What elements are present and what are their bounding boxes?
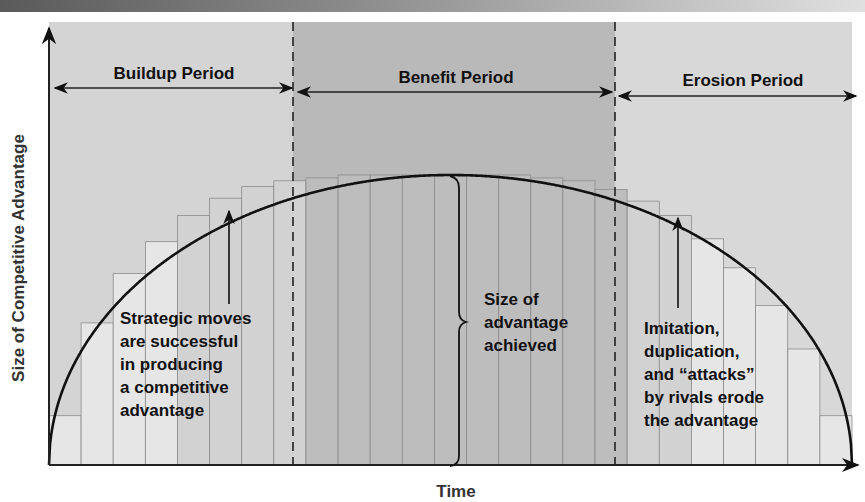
x-axis-label: Time bbox=[436, 482, 475, 501]
y-axis-label: Size of Competitive Advantage bbox=[9, 134, 28, 382]
advantage-bar bbox=[788, 349, 820, 465]
advantage-bar bbox=[370, 175, 402, 465]
advantage-bar bbox=[402, 175, 434, 465]
buildup-period-label: Buildup Period bbox=[114, 64, 235, 83]
advantage-bar bbox=[274, 181, 306, 465]
advantage-bar bbox=[338, 175, 370, 465]
advantage-bar bbox=[306, 178, 338, 465]
advantage-bar bbox=[756, 306, 788, 466]
benefit-period-label: Benefit Period bbox=[398, 68, 513, 87]
erosion-period-label: Erosion Period bbox=[683, 71, 804, 90]
advantage-bar bbox=[595, 190, 627, 466]
competitive-advantage-diagram: Buildup Period Benefit Period Erosion Pe… bbox=[0, 0, 865, 502]
advantage-bar bbox=[145, 242, 177, 465]
